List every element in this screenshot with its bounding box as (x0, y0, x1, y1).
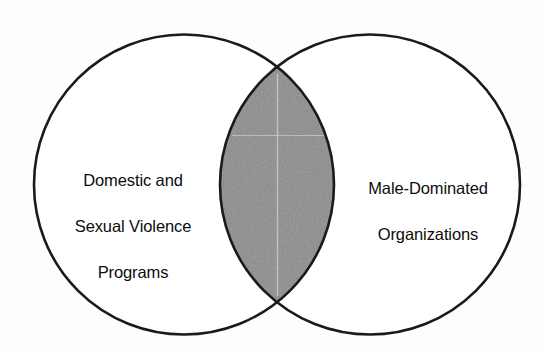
left-set-label-line-2: Sexual Violence (43, 215, 223, 238)
right-set-label: Male-Dominated Organizations (340, 154, 516, 269)
left-set-label-line-1: Domestic and (43, 169, 223, 192)
venn-diagram-canvas: Domestic and Sexual Violence Programs Ma… (0, 0, 543, 353)
right-set-label-line-2: Organizations (340, 223, 516, 246)
left-set-label: Domestic and Sexual Violence Programs (43, 146, 223, 307)
right-set-label-line-1: Male-Dominated (340, 177, 516, 200)
left-set-label-line-3: Programs (43, 261, 223, 284)
